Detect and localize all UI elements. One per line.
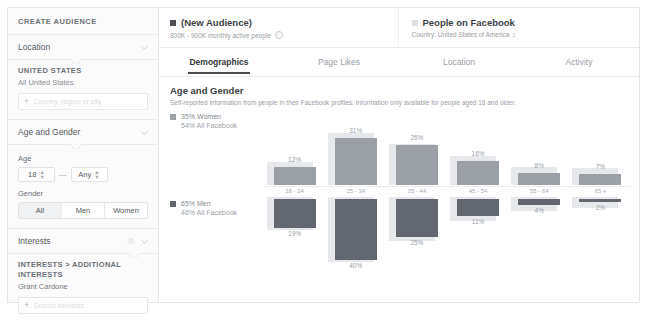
bar-value-label-men: 2% [570,204,631,211]
gender-label: Gender [18,189,148,198]
interests-search-input[interactable]: + Search interests [18,297,148,314]
plus-icon: + [24,301,29,310]
audience-name-label: People on Facebook [423,17,515,28]
axis-tick-label: 55 - 64 [509,188,570,194]
location-heading: UNITED STATES [18,66,148,75]
bar-value-label-men: 19% [264,230,325,237]
range-dash: — [59,170,67,179]
audience-card-facebook: People on Facebook Country: United State… [398,8,640,47]
age-max-value: Any [78,170,91,179]
age-gender-chart: 35% Women 54% All Facebook 65% Men 46% A… [159,110,639,302]
bar-women[interactable] [396,145,438,185]
interests-input-placeholder: Search interests [33,302,84,309]
chart-group: 7%65 +2% [570,110,631,296]
legend-women: 35% Women 54% All Facebook [170,113,237,129]
bar-men[interactable] [457,199,499,216]
bar-value-label-women: 16% [448,150,509,157]
chevron-down-icon[interactable] [140,43,149,52]
panel-caret [128,253,140,258]
legend-women-secondary: 54% All Facebook [181,122,237,129]
bar-men[interactable] [518,199,560,205]
tab-bar: Demographics Page Likes Location Activit… [159,48,639,77]
axis-tick-label: 18 - 24 [264,188,325,194]
bar-value-label-women: 12% [264,156,325,163]
bar-men[interactable] [274,199,316,228]
location-search-input[interactable]: + Country, region or city [18,93,148,110]
sidebar-title: CREATE AUDIENCE [8,8,158,34]
interests-breadcrumb: INTERESTS > ADDITIONAL INTERESTS [18,260,148,280]
legend-swatch-icon [170,20,176,26]
sidebar-section-interests[interactable]: Interests [8,229,158,253]
legend-men-primary-row: 65% Men [170,200,237,207]
sidebar-section-age-gender-label: Age and Gender [18,127,80,137]
legend-swatch-icon [412,20,418,26]
bar-women[interactable] [579,174,621,185]
legend-swatch-icon [170,201,176,207]
axis-tick-label: 45 - 54 [448,188,509,194]
sidebar-section-interests-label: Interests [18,236,51,246]
gender-segmented-control: All Men Women [18,202,148,219]
bar-value-label-men: 4% [509,207,570,214]
bar-men[interactable] [579,199,621,202]
chevron-down-icon[interactable] [140,237,149,246]
bar-value-label-men: 25% [386,239,447,246]
axis-tick-label: 25 - 34 [325,188,386,194]
tab-demographics[interactable]: Demographics [159,48,279,76]
age-max-stepper[interactable]: Any ▲▼ [71,167,108,182]
bar-value-label-men: 11% [448,218,509,225]
sidebar-section-location-label: Location [18,42,50,52]
section-title: Age and Gender [170,85,639,96]
gender-option-all[interactable]: All [19,203,62,218]
gear-icon[interactable] [127,237,135,245]
gender-option-men[interactable]: Men [62,203,105,218]
audience-subtitle: 800K - 900K monthly active people [170,31,398,39]
interests-panel: INTERESTS > ADDITIONAL INTERESTS Grant C… [8,254,158,321]
age-min-stepper[interactable]: 18 ▲▼ [18,167,55,182]
section-header: Age and Gender Self-reported information… [159,77,639,106]
axis-tick-label: 65 + [570,188,631,194]
bar-value-label-women: 8% [509,162,570,169]
sidebar-section-age-gender[interactable]: Age and Gender [8,120,158,144]
panel-caret [70,144,82,149]
chart-plot-area: 12%18 - 2419%31%25 - 3440%26%35 - 4425%1… [264,110,631,296]
axis-tick-label: 35 - 44 [386,188,447,194]
section-subtitle: Self-reported information from people in… [170,99,639,106]
bar-women[interactable] [518,173,560,185]
tab-location[interactable]: Location [399,48,519,76]
bar-value-label-men: 40% [325,262,386,269]
legend-women-primary: 35% Women [181,113,221,120]
bar-men[interactable] [396,199,438,237]
location-input-placeholder: Country, region or city [33,98,101,105]
bar-women[interactable] [274,167,316,185]
sidebar-section-location[interactable]: Location [8,35,158,59]
interest-value: Grant Cardone [18,282,148,291]
tab-activity[interactable]: Activity [519,48,639,76]
bar-value-label-women: 7% [570,163,631,170]
stepper-arrows-icon[interactable]: ▲▼ [94,170,99,180]
gender-option-women[interactable]: Women [105,203,147,218]
audience-country-label: Country: United States of America [412,31,510,38]
chart-group: 8%55 - 644% [509,110,570,296]
chevron-down-icon[interactable] [140,128,149,137]
bar-women[interactable] [457,161,499,185]
legend-swatch-icon [170,114,176,120]
info-icon[interactable] [275,31,283,39]
location-panel: UNITED STATES All United States + Countr… [8,60,158,119]
chart-group: 12%18 - 2419% [264,110,325,296]
legend-men: 65% Men 46% All Facebook [170,200,237,216]
stepper-arrows-icon[interactable]: ▲▼ [39,170,44,180]
panel-caret [70,59,82,64]
audience-name-label: (New Audience) [181,17,252,28]
bar-men[interactable] [335,199,377,260]
age-min-value: 18 [28,170,36,179]
audience-insights-window: CREATE AUDIENCE Location UNITED STATES A… [7,7,640,303]
tab-page-likes[interactable]: Page Likes [279,48,399,76]
bar-women[interactable] [335,138,377,185]
bar-value-label-women: 26% [386,134,447,141]
audience-name: (New Audience) [170,17,398,28]
legend-men-secondary: 46% All Facebook [181,209,237,216]
audience-card-new: (New Audience) 800K - 900K monthly activ… [159,8,398,47]
age-gender-panel: Age 18 ▲▼ — Any ▲▼ Gender All Men Women [8,145,158,228]
chart-group: 26%35 - 4425% [386,110,447,296]
audience-header: (New Audience) 800K - 900K monthly activ… [159,8,639,48]
